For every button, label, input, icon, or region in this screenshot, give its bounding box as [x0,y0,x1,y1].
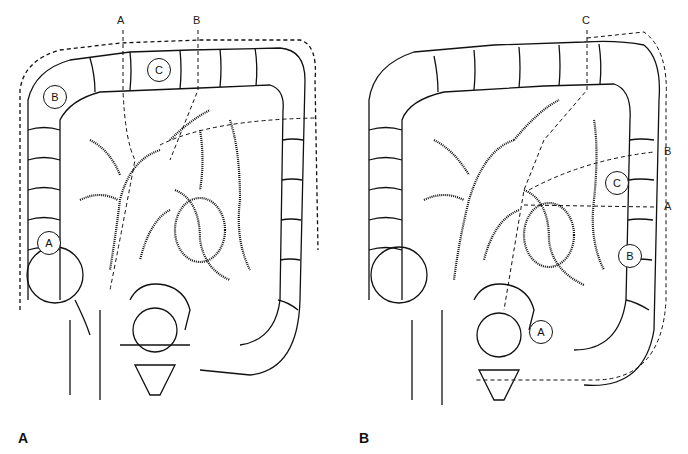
colon-illustration-a [0,0,344,454]
segment-marker-c: C [147,58,171,82]
panel-label-b: B [359,430,369,446]
segment-marker-a: A [37,231,61,255]
resection-line-label-a: A [117,14,124,26]
colon-illustration-b [344,0,688,454]
resection-line-label-b: B [193,14,200,26]
panel-b: C B A C B A B [344,0,688,454]
segment-marker-b: B [43,85,67,109]
resection-line-label-a: A [664,200,671,212]
resection-line-label-c: C [582,14,590,26]
segment-marker-c: C [605,171,629,195]
segment-marker-a: A [529,320,553,344]
panel-a: A B C B A A [0,0,344,454]
segment-marker-b: B [618,244,642,268]
panel-label-a: A [18,430,28,446]
resection-line-label-b: B [664,145,671,157]
